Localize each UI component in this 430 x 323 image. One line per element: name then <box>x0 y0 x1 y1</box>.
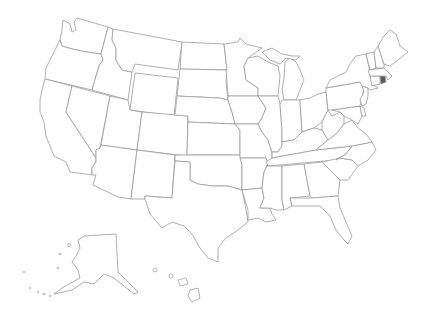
hawaii-island-kauai <box>153 268 157 272</box>
aleutian-island <box>23 271 24 272</box>
state-maine[interactable] <box>378 30 408 66</box>
aleutian-island <box>37 291 38 292</box>
bering-island <box>59 253 61 255</box>
state-south-dakota[interactable] <box>177 69 228 100</box>
us-states-map: United States <box>0 0 430 323</box>
state-montana[interactable] <box>112 29 182 72</box>
state-wyoming[interactable] <box>130 73 178 116</box>
state-kansas[interactable] <box>187 122 240 155</box>
contiguous-states <box>40 18 408 262</box>
state-arizona[interactable] <box>92 145 137 199</box>
st-lawrence-island <box>68 244 71 247</box>
state-new-mexico[interactable] <box>131 150 175 199</box>
hawaii-group <box>153 268 200 302</box>
state-iowa[interactable] <box>228 96 266 124</box>
state-connecticut[interactable] <box>370 76 380 86</box>
alaska-group <box>23 234 138 297</box>
aleutian-island <box>43 293 45 295</box>
state-colorado[interactable] <box>137 112 188 156</box>
state-michigan-lower[interactable] <box>282 58 304 100</box>
hawaii-island-maui <box>178 278 188 286</box>
state-alaska[interactable] <box>54 234 138 294</box>
state-rhode-island[interactable] <box>380 76 386 84</box>
aleutian-island <box>29 287 30 288</box>
aleutian-island <box>49 295 51 297</box>
state-hawaii[interactable] <box>188 288 200 302</box>
bering-island <box>57 267 59 269</box>
state-north-dakota[interactable] <box>180 42 227 70</box>
state-florida[interactable] <box>290 196 352 244</box>
hawaii-island-oahu <box>169 274 173 278</box>
